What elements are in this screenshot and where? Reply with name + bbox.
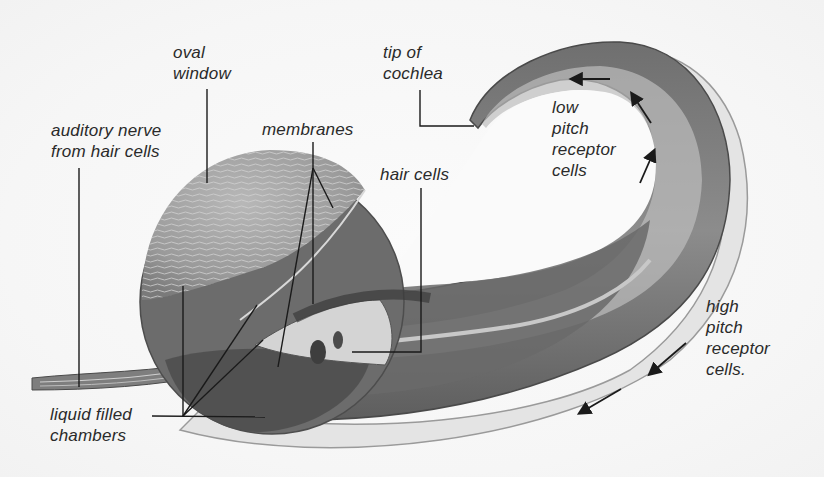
label-auditory-nerve: auditory nerve from hair cells xyxy=(51,120,162,162)
label-oval-window: oval window xyxy=(173,42,231,84)
label-low-pitch-receptor-cells: low pitch receptor cells xyxy=(552,97,616,181)
label-liquid-filled-chambers: liquid filled chambers xyxy=(50,404,132,446)
label-tip-of-cochlea: tip of cochlea xyxy=(383,42,443,84)
label-membranes: membranes xyxy=(262,119,354,140)
cochlea-diagram: oval window tip of cochlea auditory nerv… xyxy=(0,0,824,477)
label-hair-cells: hair cells xyxy=(380,164,449,185)
label-high-pitch-receptor-cells: high pitch receptor cells. xyxy=(706,296,770,380)
